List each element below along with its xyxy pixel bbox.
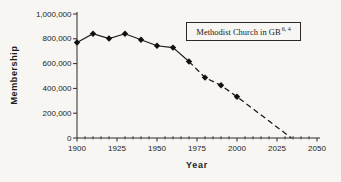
- y-tick-label: 600,000: [43, 59, 72, 68]
- legend-box: Methodist Church in GB6, 4: [186, 22, 301, 41]
- y-axis-title: Membership: [9, 45, 19, 104]
- x-axis-title: Year: [186, 160, 208, 170]
- x-tick-label: 1975: [188, 144, 206, 153]
- legend-superscript: 6, 4: [282, 26, 291, 32]
- legend-label: Methodist Church in GB: [196, 27, 280, 37]
- x-tick-label: 2000: [228, 144, 246, 153]
- data-point-marker: [90, 31, 96, 37]
- x-tick-label: 2050: [308, 144, 326, 153]
- y-tick-label: 0: [67, 134, 72, 143]
- x-tick-label: 2025: [268, 144, 286, 153]
- membership-chart-figure: 0200,000400,000600,000800,0001,000,00019…: [0, 0, 341, 182]
- y-tick-label: 800,000: [43, 34, 72, 43]
- data-point-marker: [74, 39, 80, 45]
- x-tick-label: 1950: [148, 144, 166, 153]
- data-point-marker: [138, 37, 144, 43]
- series-line-dashed-projection: [189, 61, 291, 138]
- data-point-marker: [106, 35, 112, 41]
- y-tick-label: 200,000: [43, 109, 72, 118]
- x-tick-label: 1900: [68, 144, 86, 153]
- data-point-marker: [154, 43, 160, 49]
- data-point-marker: [218, 82, 224, 88]
- y-tick-label: 400,000: [43, 84, 72, 93]
- x-tick-label: 1925: [108, 144, 126, 153]
- data-point-marker: [122, 31, 128, 37]
- y-tick-label: 1,000,000: [36, 10, 72, 19]
